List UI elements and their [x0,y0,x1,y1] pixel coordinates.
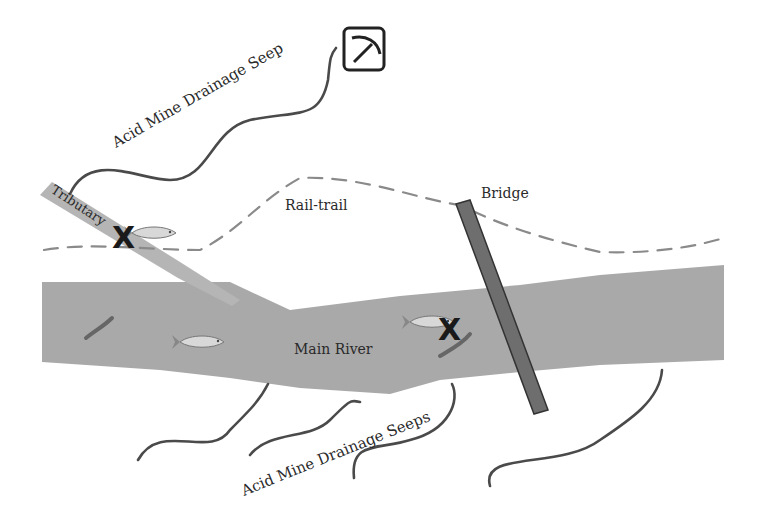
label-upper-seep: Acid Mine Drainage Seep [108,39,286,152]
impaired-marker-tributary: X [112,220,135,255]
lower-seep-1 [138,384,268,460]
label-bridge: Bridge [481,185,529,201]
impaired-marker-main: X [438,312,461,347]
main-river [42,265,724,394]
label-lower-seeps: Acid Mine Drainage Seeps [238,407,433,500]
mine-pickaxe-icon [344,28,384,70]
upper-seep-line [70,48,336,194]
lower-seep-4 [489,370,662,486]
label-rail-trail: Rail-trail [285,197,348,213]
label-main-river: Main River [294,341,373,357]
river-diagram: X X Acid Mine Drainage Seep Tributary Ra… [0,0,761,524]
